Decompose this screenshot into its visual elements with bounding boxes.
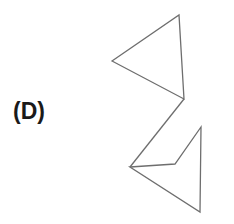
top-triangle	[112, 15, 184, 99]
bottom-concave-shape	[130, 127, 201, 212]
connector-line	[130, 99, 184, 167]
figure	[0, 0, 234, 224]
